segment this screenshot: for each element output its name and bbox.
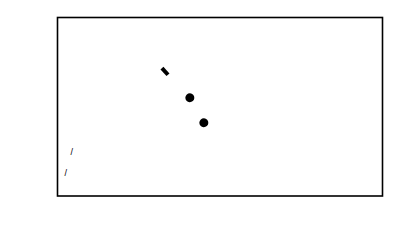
plot-frame xyxy=(58,18,383,197)
fraction-one-sixteenth: / xyxy=(71,146,74,157)
chart-figure: / / xyxy=(0,0,418,237)
fraction-one-twentyfourth: / xyxy=(65,167,68,178)
curve-label-cylinder xyxy=(195,116,212,133)
plot-area xyxy=(0,0,418,237)
curve-label-ribbon xyxy=(158,66,172,80)
curve-label-sphere xyxy=(181,91,198,108)
x-axis-title xyxy=(105,216,110,227)
intercepts-ribbon-cylinder-line2: / xyxy=(68,146,73,157)
intercepts-sphere: / xyxy=(62,167,67,178)
